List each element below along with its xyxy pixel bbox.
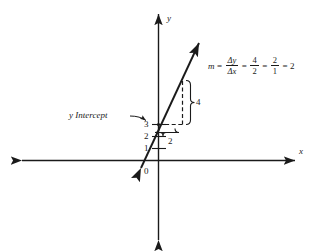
y-tick-label-3: 3	[144, 120, 149, 129]
fraction-2-numerator: 2	[271, 56, 279, 66]
x-axis-label: x	[299, 147, 303, 156]
fraction-four-over-two: 4 2	[250, 56, 258, 75]
equation-equals-2: =	[242, 61, 247, 71]
y-tick-label-1: 1	[144, 144, 149, 153]
origin-label: 0	[144, 167, 149, 176]
delta-fraction: Δy Δx	[226, 56, 239, 75]
slope-diagram-figure: y x 0 1 2 3 y Intercept 4 2 m = Δy Δx = …	[0, 0, 317, 252]
fraction-1-denominator: 2	[250, 66, 258, 75]
delta-x: Δx	[226, 66, 239, 75]
equation-m: m	[208, 61, 215, 71]
coordinate-plane-graphic	[0, 0, 317, 252]
fraction-1-numerator: 4	[250, 56, 258, 66]
y-intercept-point	[157, 123, 160, 126]
fraction-2-denominator: 1	[271, 66, 279, 75]
delta-y: Δy	[226, 56, 239, 66]
rise-value-label: 4	[196, 98, 201, 107]
equation-equals-3: =	[262, 61, 267, 71]
rise-brace	[186, 81, 195, 125]
y-tick-label-2: 2	[144, 132, 149, 141]
y-axis-label: y	[167, 14, 171, 23]
slope-equation: m = Δy Δx = 4 2 = 2 1 = 2	[208, 56, 295, 75]
equation-result: 2	[290, 61, 295, 71]
fraction-two-over-one: 2 1	[271, 56, 279, 75]
equation-equals-4: =	[283, 61, 288, 71]
run-value-label: 2	[168, 137, 173, 146]
y-intercept-annotation-text: y Intercept	[69, 110, 107, 120]
y-intercept-annotation: y Intercept	[69, 111, 107, 120]
equation-equals-1: =	[217, 61, 222, 71]
